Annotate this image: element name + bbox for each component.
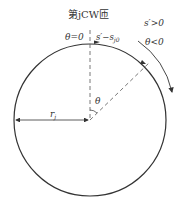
theta-arc bbox=[90, 110, 97, 113]
theta-zero-label: θ=0 bbox=[65, 32, 84, 42]
s-label-main: s′−s bbox=[96, 32, 114, 42]
theta-ray-line bbox=[90, 62, 150, 120]
theta-label: θ bbox=[95, 96, 101, 106]
turn-label: 第jCW匝 bbox=[68, 8, 109, 20]
radius-label: rj bbox=[50, 109, 56, 121]
direction-arc bbox=[138, 41, 172, 92]
s-label-sub: j0 bbox=[112, 36, 120, 44]
s-positive-label: s′>0 bbox=[144, 18, 164, 28]
ray-arrow-icon bbox=[140, 60, 146, 64]
theta-negative-label: θ<0 bbox=[145, 37, 164, 47]
s-label: s′−sj0 bbox=[96, 32, 120, 44]
winding-diagram: 第jCW匝 θ=0 s′−sj0 s′>0 θ<0 θ rj bbox=[0, 0, 184, 211]
